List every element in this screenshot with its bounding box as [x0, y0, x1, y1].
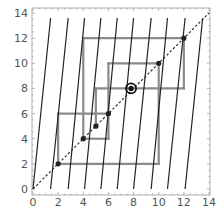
y-tick-label: 12	[14, 32, 28, 45]
y-tick-label: 0	[21, 183, 28, 196]
x-tick-label: 12	[177, 196, 191, 209]
x-tick-label: 2	[55, 196, 62, 209]
y-tick-label: 2	[21, 158, 28, 171]
y-axis-labels: 02468101214	[14, 7, 28, 196]
y-tick-label: 4	[21, 133, 28, 146]
highlight-point-marker	[128, 86, 133, 91]
x-tick-label: 0	[30, 196, 37, 209]
y-tick-label: 8	[21, 82, 28, 95]
orbit-point-marker	[156, 61, 161, 66]
cobweb-chart: 02468101214 02468101214	[0, 0, 218, 213]
orbit-point-marker	[181, 36, 186, 41]
x-tick-label: 8	[130, 196, 137, 209]
branch-line	[33, 18, 51, 189]
x-axis-labels: 02468101214	[30, 196, 216, 209]
y-tick-label: 10	[14, 57, 28, 70]
branch-line	[185, 18, 203, 189]
orbit-point-marker	[56, 161, 61, 166]
orbit-point-marker	[106, 111, 111, 116]
y-tick-label: 6	[21, 108, 28, 121]
orbit-point-marker	[81, 136, 86, 141]
x-tick-label: 6	[105, 196, 112, 209]
orbit-point-marker	[93, 124, 98, 129]
y-tick-label: 14	[14, 7, 28, 20]
x-tick-label: 10	[152, 196, 166, 209]
branch-line	[167, 18, 185, 189]
x-tick-label: 4	[80, 196, 87, 209]
x-tick-label: 14	[202, 196, 216, 209]
